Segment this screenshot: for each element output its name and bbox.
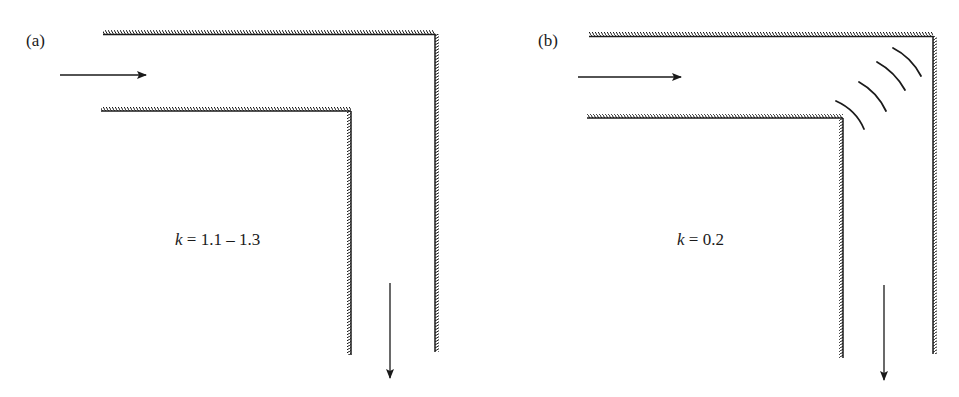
panel-b: (b) k = 0.2 [480,0,959,397]
guide-vanes [836,48,921,129]
guide-vane-3 [877,62,905,90]
loss-coefficient-b: k = 0.2 [677,230,724,250]
elbow-diagram-a [0,0,480,397]
outer-wall-b [589,32,937,354]
outer-wall-a [103,30,439,352]
k-symbol: k [175,230,183,249]
guide-vane-4 [893,48,921,76]
k-value: = 1.1 – 1.3 [183,230,261,249]
guide-vane-2 [859,82,886,111]
loss-coefficient-a: k = 1.1 – 1.3 [175,230,260,250]
panel-label-a: (a) [26,31,45,51]
elbow-diagram-b [480,0,959,397]
k-symbol: k [677,230,685,249]
panel-label-b: (b) [538,31,558,51]
k-value: = 0.2 [685,230,724,249]
panel-a: (a) k = 1.1 – 1.3 [0,0,480,397]
